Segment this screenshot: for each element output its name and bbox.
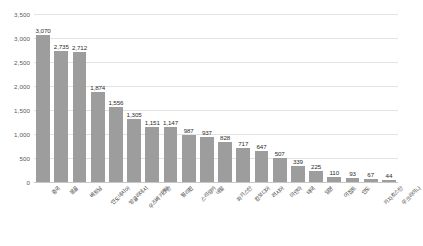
bar-slot[interactable]: 937 (198, 14, 216, 182)
bar-value-label: 717 (238, 140, 248, 147)
bar-slot[interactable]: 647 (252, 14, 270, 182)
bar-value-label: 1,556 (108, 99, 123, 106)
x-axis-tick-label: 스리랑카 (198, 184, 217, 203)
bar-slot[interactable]: 2,735 (52, 14, 70, 182)
bar-value-label: 987 (184, 127, 194, 134)
bar-value-label: 2,712 (72, 44, 87, 51)
bar-value-label: 2,735 (54, 43, 69, 50)
bar-value-label: 828 (220, 134, 230, 141)
bar[interactable] (273, 158, 287, 182)
bar[interactable] (73, 52, 87, 182)
bar-slot[interactable]: 93 (343, 14, 361, 182)
bar-value-label: 1,874 (90, 84, 105, 91)
bar[interactable] (36, 35, 50, 182)
bar-slot[interactable]: 44 (380, 14, 398, 182)
plot-area: 05001,0001,5002,0002,5003,0003,500 3,070… (34, 14, 398, 182)
y-axis-tick-label: 3,500 (14, 11, 30, 18)
bar[interactable] (109, 107, 123, 182)
x-axis-tick-label: 러시아 (270, 184, 286, 200)
x-axis-tick-label: 이집트 (343, 184, 359, 200)
bar-value-label: 937 (202, 129, 212, 136)
x-axis-tick-label: 태국 (305, 184, 317, 196)
bar[interactable] (364, 179, 378, 182)
bar-value-label: 647 (256, 143, 266, 150)
bar[interactable] (182, 135, 196, 182)
bar-value-label: 44 (386, 172, 393, 179)
bar[interactable] (145, 127, 159, 182)
bar[interactable] (236, 148, 250, 182)
y-axis-tick-label: 1,500 (14, 107, 30, 114)
bar-series: 3,0702,7352,7121,8741,5561,3051,1511,147… (34, 14, 398, 182)
bar-slot[interactable]: 339 (289, 14, 307, 182)
bar-slot[interactable]: 1,305 (125, 14, 143, 182)
bar[interactable] (200, 137, 214, 182)
y-axis-tick-label: 1,000 (14, 131, 30, 138)
bar[interactable] (346, 178, 360, 182)
bar-slot[interactable]: 110 (325, 14, 343, 182)
bar-slot[interactable]: 1,874 (89, 14, 107, 182)
bar-slot[interactable]: 828 (216, 14, 234, 182)
bar-value-label: 110 (329, 169, 339, 176)
bar-value-label: 1,151 (145, 119, 160, 126)
x-axis-tick-label: 미얀마 (288, 184, 304, 200)
x-axis-tick-label: 몽골 (68, 184, 80, 196)
bar-value-label: 1,305 (127, 111, 142, 118)
bar-slot[interactable]: 1,147 (161, 14, 179, 182)
bar-value-label: 339 (293, 158, 303, 165)
bar[interactable] (164, 127, 178, 182)
x-axis-tick-label: 베트남 (88, 184, 104, 200)
bar-slot[interactable]: 507 (271, 14, 289, 182)
bar[interactable] (255, 151, 269, 182)
bar[interactable] (127, 119, 141, 182)
bar-slot[interactable]: 717 (234, 14, 252, 182)
bar-slot[interactable]: 2,712 (70, 14, 88, 182)
x-axis-tick-label: 파키스탄 (235, 184, 254, 203)
x-axis-tick-label: 중국 (50, 184, 62, 196)
bar-value-label: 507 (275, 150, 285, 157)
bar-slot[interactable]: 1,151 (143, 14, 161, 182)
y-axis-tick-label: 500 (19, 155, 30, 162)
x-axis-line: 0 (34, 182, 398, 183)
bar[interactable] (382, 180, 396, 182)
x-axis-tick-label: 네팔 (214, 184, 226, 196)
x-axis-tick-label: 카자흐스탄 (382, 184, 405, 207)
bar[interactable] (291, 166, 305, 182)
bar[interactable] (218, 142, 232, 182)
y-axis-tick-label: 0 (26, 179, 30, 186)
bar-value-label: 3,070 (36, 27, 51, 34)
bar-slot[interactable]: 67 (362, 14, 380, 182)
bar[interactable] (54, 51, 68, 182)
x-axis-tick-label: 필리핀 (179, 184, 195, 200)
x-axis-tick-label: 인도 (359, 184, 371, 196)
bar-value-label: 93 (349, 170, 356, 177)
bar[interactable] (309, 171, 323, 182)
bar[interactable] (327, 177, 341, 182)
x-axis-tick-label: 일본 (323, 184, 335, 196)
x-axis-tick-label: 인도네시아 (109, 184, 132, 207)
bar[interactable] (91, 92, 105, 182)
bar-value-label: 67 (367, 171, 374, 178)
y-axis-tick-label: 2,000 (14, 83, 30, 90)
bar-value-label: 225 (311, 163, 321, 170)
bar-slot[interactable]: 3,070 (34, 14, 52, 182)
y-axis-tick-label: 3,000 (14, 35, 30, 42)
x-axis-labels: 중국몽골베트남인도네시아방글라데시우즈베키스탄기타필리핀스리랑카네팔파키스탄캄보… (34, 184, 398, 246)
bar-slot[interactable]: 1,556 (107, 14, 125, 182)
bar-slot[interactable]: 225 (307, 14, 325, 182)
bar-value-label: 1,147 (163, 119, 178, 126)
bar-slot[interactable]: 987 (180, 14, 198, 182)
y-axis-tick-label: 2,500 (14, 59, 30, 66)
